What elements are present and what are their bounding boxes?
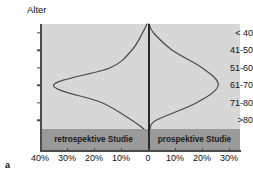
plot-area [40,24,240,129]
y-tick-label-51-60: 51-60 [219,63,253,73]
center-zero-line [148,24,150,150]
x-tick-label-2: 20% [85,153,103,163]
x-tick-label-7: 30% [220,153,238,163]
x-tick-mark [94,148,95,152]
y-tick-mark [37,120,41,121]
x-tick-mark [40,148,41,152]
x-tick-mark [175,148,176,152]
legend-band: retrospektive Studie prospektive Studie [40,129,240,150]
y-tick-label-61-70: 61-70 [219,80,253,90]
x-tick-label-0: 40% [31,153,49,163]
x-tick-label-4: 0 [145,153,150,163]
x-tick-mark [121,148,122,152]
y-tick-label--40: < 40 [219,28,253,38]
x-tick-mark [229,148,230,152]
x-axis-line [40,150,241,152]
legend-label-retrospective: retrospektive Studie [40,129,147,150]
y-axis-line [40,24,42,150]
x-tick-label-3: 10% [112,153,130,163]
y-tick-label--80: >80 [219,115,253,125]
x-tick-label-6: 20% [193,153,211,163]
x-tick-mark [202,148,203,152]
y-tick-mark [37,85,41,86]
x-tick-mark [67,148,68,152]
y-tick-mark [37,102,41,103]
y-tick-mark [37,67,41,68]
x-tick-label-1: 30% [58,153,76,163]
y-tick-label-41-50: 41-50 [219,45,253,55]
x-tick-mark [148,148,149,152]
legend-label-prospective: prospektive Studie [149,129,240,150]
y-tick-mark [37,32,41,33]
figure-panel: Alter retrospektive Studie prospektive S… [0,0,253,182]
y-tick-mark [37,50,41,51]
x-tick-label-5: 10% [166,153,184,163]
panel-label: a [5,160,10,170]
y-tick-label-71-80: 71-80 [219,98,253,108]
y-axis-title: Alter [27,4,47,15]
